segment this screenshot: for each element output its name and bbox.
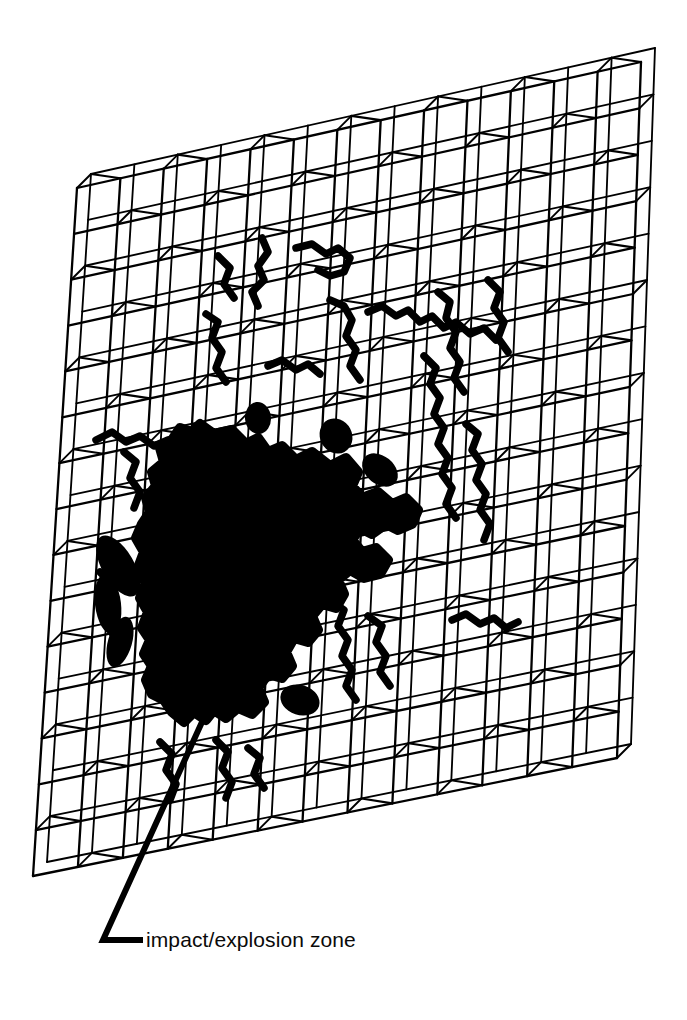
impact-zone-label: impact/explosion zone [146,927,356,952]
impact-explosion-diagram: impact/explosion zone [0,0,687,1020]
lattice-diagram-svg [0,0,687,1020]
